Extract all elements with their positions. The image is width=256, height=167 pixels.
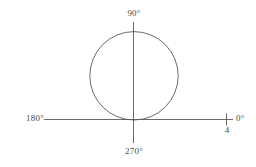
axis-label-90-degrees: 90°: [118, 9, 150, 18]
figure-canvas: 90° 270° 180° 0° 4: [0, 0, 256, 167]
tick-label-4: 4: [218, 126, 236, 135]
axis-label-0-degrees: 0°: [236, 114, 245, 123]
polar-diagram-svg: [0, 0, 256, 167]
axis-label-180-degrees: 180°: [10, 114, 44, 123]
axis-label-270-degrees: 270°: [118, 147, 150, 156]
circle-curve: [90, 32, 178, 120]
